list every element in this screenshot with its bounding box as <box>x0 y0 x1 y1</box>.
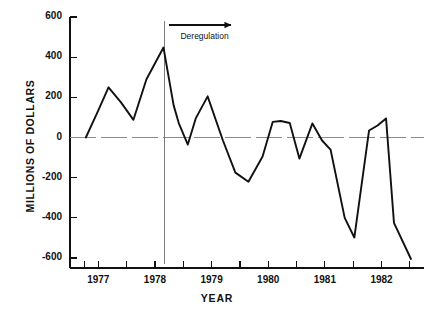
deregulation-arrow-icon <box>169 22 231 28</box>
arrow-head <box>224 22 231 28</box>
x-tick-label: 1980 <box>248 274 288 285</box>
x-axis-title: YEAR <box>0 292 434 304</box>
y-tick-label: 400 <box>20 50 62 61</box>
series-net-operating-income <box>86 48 411 259</box>
y-tick-label: 200 <box>20 90 62 101</box>
x-tick-label: 1981 <box>305 274 345 285</box>
x-tick-label: 1979 <box>192 274 232 285</box>
x-tick-label: 1982 <box>362 274 402 285</box>
x-tick-label: 1977 <box>78 274 118 285</box>
data-series-line <box>86 48 411 259</box>
axis-lines <box>70 17 424 268</box>
y-tick-label: -200 <box>20 171 62 182</box>
plot-area <box>0 0 434 317</box>
x-tick-label: 1978 <box>135 274 175 285</box>
y-tick-label: -400 <box>20 211 62 222</box>
chart-figure: MILLIONS OF DOLLARS YEAR 6004002000-200-… <box>0 0 434 317</box>
deregulation-annotation-label: Deregulation <box>180 31 228 41</box>
y-tick-label: -600 <box>20 251 62 262</box>
y-tick-label: 0 <box>20 131 62 142</box>
y-tick-label: 600 <box>20 10 62 21</box>
